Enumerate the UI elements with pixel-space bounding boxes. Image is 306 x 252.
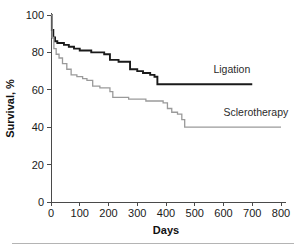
x-tick-label: 700 bbox=[243, 207, 261, 219]
x-tick-label: 400 bbox=[157, 207, 175, 219]
survival-curve-chart: 020406080100 0100200300400500600700800 S… bbox=[0, 0, 306, 252]
y-tick-label: 60 bbox=[32, 84, 44, 96]
y-axis-tick-labels: 020406080100 bbox=[26, 9, 44, 208]
x-tick-label: 500 bbox=[186, 207, 204, 219]
x-tick-label: 600 bbox=[214, 207, 232, 219]
series-label-ligation: Ligation bbox=[213, 63, 250, 75]
x-axis-tick-marks bbox=[51, 202, 281, 206]
x-axis-tick-labels: 0100200300400500600700800 bbox=[48, 207, 290, 219]
x-tick-label: 100 bbox=[71, 207, 89, 219]
y-tick-label: 20 bbox=[32, 159, 44, 171]
y-tick-label: 40 bbox=[32, 121, 44, 133]
y-axis-tick-marks bbox=[47, 15, 51, 202]
y-tick-label: 80 bbox=[32, 46, 44, 58]
y-axis-title: Survival, % bbox=[4, 79, 16, 138]
series-labels: LigationSclerotherapy bbox=[213, 63, 289, 118]
x-tick-label: 800 bbox=[272, 207, 290, 219]
y-tick-label: 0 bbox=[38, 196, 44, 208]
x-tick-label: 300 bbox=[128, 207, 146, 219]
y-tick-label: 100 bbox=[26, 9, 44, 21]
x-tick-label: 200 bbox=[99, 207, 117, 219]
x-axis-title: Days bbox=[153, 224, 179, 236]
figure-root: 020406080100 0100200300400500600700800 S… bbox=[0, 0, 306, 252]
x-tick-label: 0 bbox=[48, 207, 54, 219]
series-label-sclerotherapy: Sclerotherapy bbox=[224, 106, 290, 118]
